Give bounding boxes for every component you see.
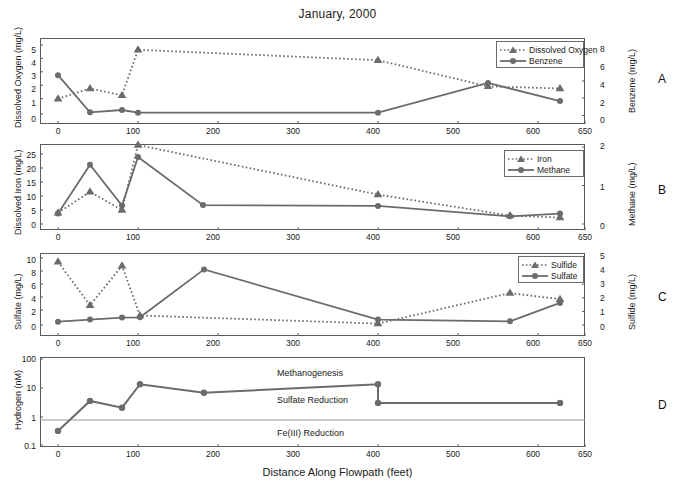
- panel-b-xtick-500: 500: [442, 232, 464, 242]
- panel-d-xtick-0: 0: [47, 449, 69, 459]
- panel-d-ytick-1: 1: [10, 413, 36, 423]
- legend-item-methane: Methane: [508, 164, 579, 175]
- panel-d-ytick-100: 100: [10, 354, 36, 364]
- panel-a-letter: A: [658, 72, 666, 86]
- panel-c-ytick-2: 2: [14, 307, 36, 317]
- panel-b-xtick-400: 400: [362, 232, 384, 242]
- panel-c-right-axis-label: Sulfide (mg/L): [627, 274, 637, 330]
- panel-a-xtick-400: 400: [362, 126, 384, 136]
- chart-title: January, 2000: [0, 7, 675, 21]
- panel-b-xtick-200: 200: [202, 232, 224, 242]
- panel-b-ytick-25: 25: [14, 150, 36, 160]
- solid-circle-icon: [500, 56, 526, 66]
- panel-d-xtick-650: 650: [574, 449, 596, 459]
- panel-b-xtick-650: 650: [574, 232, 596, 242]
- panel-a-ytick-3: 3: [18, 71, 36, 81]
- panel-a-y2tick-8: 8: [600, 44, 616, 54]
- panel-a-y2tick-0: 0: [600, 115, 616, 125]
- panel-c-y2tick-4: 4: [600, 265, 616, 275]
- panel-b-right-axis-label: Methane (mg/L): [627, 162, 637, 226]
- dotted-triangle-icon: [508, 154, 534, 164]
- legend-label-dissolved-oxygen: Dissolved Oxygen: [529, 45, 598, 55]
- panel-c-y2tick-5: 5: [600, 251, 616, 261]
- panel-d-xtick-600: 600: [522, 449, 544, 459]
- panel-a-ytick-0: 0: [18, 114, 36, 124]
- legend-label-iron: Iron: [537, 154, 552, 164]
- panel-d-ytick-0-1: 0.1: [10, 441, 36, 451]
- panel-a-legend: Dissolved Oxygen Benzene: [496, 41, 584, 68]
- panel-d-ytick-10: 10: [10, 383, 36, 393]
- panel-a-ytick-2: 2: [18, 84, 36, 94]
- legend-label-sulfate: Sulfate: [551, 271, 577, 281]
- panel-b-legend: Iron Methane: [504, 150, 584, 177]
- panel-b-y2tick-2: 2: [600, 141, 616, 151]
- panel-d-annotation-methanogenesis: Methanogenesis: [277, 368, 343, 378]
- panel-d-xtick-400: 400: [362, 449, 384, 459]
- panel-c-xtick-500: 500: [442, 338, 464, 348]
- panel-c-ytick-8: 8: [14, 268, 36, 278]
- panel-a-xtick-0: 0: [47, 126, 69, 136]
- panel-c-xtick-200: 200: [202, 338, 224, 348]
- panel-a-right-axis-label: Benzene (mg/L): [627, 49, 637, 113]
- panel-b-letter: B: [658, 183, 666, 197]
- panel-a-xtick-500: 500: [442, 126, 464, 136]
- panel-c-xtick-400: 400: [362, 338, 384, 348]
- panel-b-ytick-10: 10: [14, 192, 36, 202]
- legend-item-sulfide: Sulfide: [522, 259, 579, 270]
- panel-c-ytick-6: 6: [14, 281, 36, 291]
- panel-c-legend: Sulfide Sulfate: [518, 256, 584, 283]
- panel-a-xtick-300: 300: [282, 126, 304, 136]
- legend-item-iron: Iron: [508, 153, 579, 164]
- legend-label-sulfide: Sulfide: [551, 260, 577, 270]
- panel-a-y2tick-6: 6: [600, 62, 616, 72]
- legend-item-dissolved-oxygen: Dissolved Oxygen: [500, 44, 579, 55]
- panel-c-xtick-600: 600: [522, 338, 544, 348]
- panel-c-xtick-650: 650: [574, 338, 596, 348]
- chart-figure: January, 2000 Dissolved Oxygen (mg/L) Be…: [0, 0, 675, 487]
- panel-d-xtick-500: 500: [442, 449, 464, 459]
- panel-b-xtick-600: 600: [522, 232, 544, 242]
- panel-d-annotation-feiii-reduction: Fe(III) Reduction: [277, 428, 344, 438]
- panel-c-ytick-0: 0: [14, 322, 36, 332]
- panel-c-xtick-100: 100: [122, 338, 144, 348]
- dotted-triangle-icon: [522, 260, 548, 270]
- panel-b-ytick-0: 0: [14, 220, 36, 230]
- panel-a-xtick-650: 650: [574, 126, 596, 136]
- panel-b-ytick-15: 15: [14, 178, 36, 188]
- panel-a-ytick-4: 4: [18, 58, 36, 68]
- panel-b-xtick-300: 300: [282, 232, 304, 242]
- panel-d-xtick-200: 200: [202, 449, 224, 459]
- panel-b-y2tick-0: 0: [600, 221, 616, 231]
- panel-a-y2tick-4: 4: [600, 80, 616, 90]
- solid-circle-icon: [522, 271, 548, 281]
- panel-b-xtick-0: 0: [47, 232, 69, 242]
- panel-a-xtick-100: 100: [122, 126, 144, 136]
- legend-label-methane: Methane: [537, 165, 570, 175]
- panel-c-y2tick-1: 1: [600, 307, 616, 317]
- panel-c-xtick-0: 0: [47, 338, 69, 348]
- panel-c-y2tick-0: 0: [600, 322, 616, 332]
- solid-circle-icon: [508, 165, 534, 175]
- legend-label-benzene: Benzene: [529, 56, 563, 66]
- panel-c-y2tick-2: 2: [600, 293, 616, 303]
- panel-d-xtick-300: 300: [282, 449, 304, 459]
- dotted-triangle-icon: [500, 45, 526, 55]
- panel-c-xtick-300: 300: [282, 338, 304, 348]
- panel-c-ytick-10: 10: [14, 255, 36, 265]
- legend-item-benzene: Benzene: [500, 55, 579, 66]
- panel-c-series-plot: [40, 253, 585, 336]
- panel-a-ytick-5: 5: [18, 45, 36, 55]
- panel-d-xtick-100: 100: [122, 449, 144, 459]
- panel-b-y2tick-1: 1: [600, 182, 616, 192]
- panel-b-ytick-20: 20: [14, 164, 36, 174]
- panel-a-xtick-200: 200: [202, 126, 224, 136]
- x-axis-title: Distance Along Flowpath (feet): [0, 466, 675, 478]
- legend-item-sulfate: Sulfate: [522, 270, 579, 281]
- panel-c-ytick-4: 4: [14, 294, 36, 304]
- panel-a-xtick-600: 600: [522, 126, 544, 136]
- panel-a-y2tick-2: 2: [600, 98, 616, 108]
- panel-b-ytick-5: 5: [14, 206, 36, 216]
- panel-c-y2tick-3: 3: [600, 279, 616, 289]
- panel-c-letter: C: [658, 290, 667, 304]
- panel-d-annotation-sulfate-reduction: Sulfate Reduction: [277, 395, 348, 405]
